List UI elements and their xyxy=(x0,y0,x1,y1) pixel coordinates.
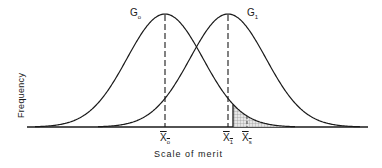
label-g0: Go xyxy=(130,7,141,20)
label-xs-mean: Xs xyxy=(242,132,252,145)
label-x0-mean: Xo xyxy=(160,132,170,145)
x-axis-title: Scale of merit xyxy=(154,149,223,159)
label-x0-sub: o xyxy=(167,139,170,145)
label-xs-sub: s xyxy=(249,139,252,145)
curve-g1 xyxy=(98,14,360,127)
label-x1-mean: X1 xyxy=(223,132,233,145)
label-g0-sub: o xyxy=(138,14,141,20)
label-g1-sub: 1 xyxy=(255,14,258,20)
y-axis-title: Frequency xyxy=(16,73,26,118)
label-g0-main: G xyxy=(130,7,138,18)
label-g1-main: G xyxy=(247,7,255,18)
label-x1-main: X xyxy=(223,132,230,143)
label-g1: G1 xyxy=(247,7,258,20)
label-x0-main: X xyxy=(160,132,167,143)
label-x1-sub: 1 xyxy=(230,139,233,145)
diagram-canvas xyxy=(0,0,382,168)
label-xs-main: X xyxy=(242,132,249,143)
distribution-diagram: Go G1 Xo X1 Xs Scale of merit Frequency xyxy=(0,0,382,168)
